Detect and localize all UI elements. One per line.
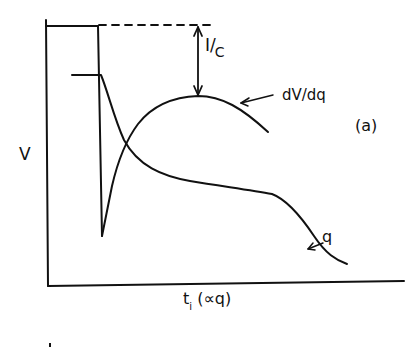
x-axis-label-suffix: (∝q) [192,289,231,308]
q-label: q [322,229,332,245]
dvdq-pointer [241,95,273,103]
y-axis-label: V [19,146,31,163]
x-axis-label-subscript: i [189,301,192,312]
figure-canvas: V I/C dV/dq (a) q ti (∝q) [0,0,419,347]
x-axis [48,281,404,286]
voltage-drop [98,26,102,236]
dvdq-curve [102,96,268,236]
x-axis-label: ti (∝q) [183,291,231,307]
ic-annotation: I/C [205,37,225,57]
dvdq-label: dV/dq [282,88,326,103]
y-axis [46,20,48,286]
ic-denominator: C [215,44,225,60]
panel-label: (a) [355,118,377,134]
stray-mark [49,343,51,347]
